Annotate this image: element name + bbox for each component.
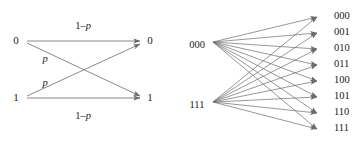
edge-label-lower-p: p — [41, 77, 47, 88]
rep-input-node-000: 000 — [189, 39, 205, 50]
right-diagram-group: 000 111 000 001 010 011 100 101 110 111 — [189, 10, 350, 133]
bsc-output-node-0: 0 — [147, 34, 153, 46]
bsc-input-node-0: 0 — [13, 34, 19, 46]
rep-output-node-000: 000 — [334, 10, 350, 21]
channel-diagram-svg: 0 1 0 1 1–p p p 1–p — [0, 0, 363, 142]
rep-output-node-110: 110 — [334, 106, 349, 117]
edge-label-upper-p: p — [41, 53, 47, 64]
bsc-edges — [27, 41, 140, 98]
rep-output-node-111: 111 — [334, 122, 349, 133]
fan-edge-000-to-110 — [213, 42, 317, 113]
fan-edge-000-to-111 — [213, 42, 317, 129]
edge-label-bottom-one-minus-p: 1–p — [75, 110, 91, 121]
fan-edge-111-to-011 — [213, 65, 317, 102]
fan-edges-from-000 — [213, 17, 317, 129]
fan-edge-111-to-101 — [213, 97, 317, 102]
bsc-input-node-1: 1 — [13, 91, 19, 103]
fan-edge-000-to-001 — [213, 33, 317, 42]
fan-edge-000-to-101 — [213, 42, 317, 97]
rep-output-node-101: 101 — [334, 90, 350, 101]
left-diagram-group: 0 1 0 1 1–p p p 1–p — [13, 20, 153, 121]
rep-output-node-001: 001 — [334, 26, 350, 37]
rep-input-node-111: 111 — [190, 99, 205, 110]
rep-output-node-011: 011 — [334, 58, 349, 69]
bsc-output-node-1: 1 — [147, 91, 153, 103]
rep-output-node-100: 100 — [334, 74, 350, 85]
fan-edge-111-to-110 — [213, 102, 317, 113]
fan-edges-from-111 — [213, 17, 317, 129]
edge-label-top-one-minus-p: 1–p — [75, 20, 91, 31]
rep-output-node-010: 010 — [334, 42, 350, 53]
figure-container: 0 1 0 1 1–p p p 1–p — [0, 0, 363, 142]
